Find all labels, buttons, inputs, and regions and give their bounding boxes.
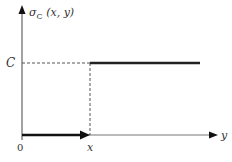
x-axis-label: y <box>220 129 228 142</box>
step-function-diagram: σC (x, y) C 0 x y <box>0 0 232 162</box>
level-c-label: C <box>6 56 15 70</box>
x-axis-arrowhead-icon <box>209 132 218 139</box>
y-axis-arrowhead-icon <box>19 5 26 14</box>
y-axis-label: σC (x, y) <box>29 6 74 21</box>
origin-label: 0 <box>17 142 23 153</box>
step-x-label: x <box>87 141 94 154</box>
zero-to-x-arrowhead-icon <box>80 131 90 140</box>
